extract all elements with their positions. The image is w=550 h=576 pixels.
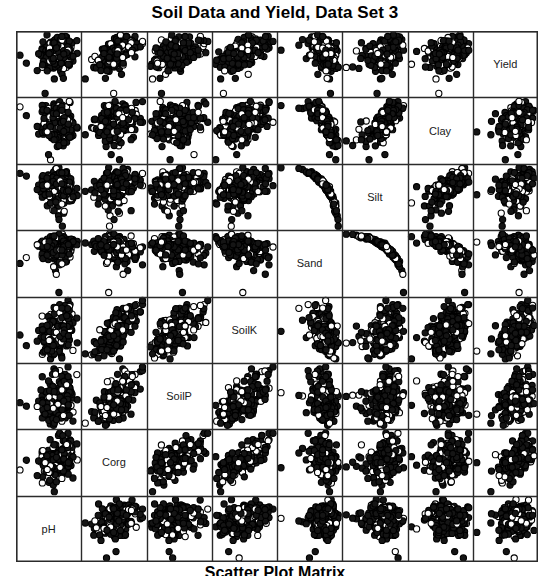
scatter-point [506,355,512,361]
scatter-point [180,137,186,143]
scatter-point [92,409,98,415]
scatter-point [386,115,392,121]
scatter-point [171,128,177,134]
scatter-point [97,327,103,333]
scatter-point [408,200,414,206]
scatter-point [177,271,183,277]
scatter-point [523,137,529,143]
scatter-point [236,555,242,561]
scatter-point [264,378,270,384]
scatter-point [448,396,454,402]
scatter-point [191,115,197,121]
scatter-point [325,472,331,478]
scatter-point [502,129,508,135]
scatter-point [452,548,458,554]
scatter-point [449,530,455,536]
scatter-point [448,479,454,485]
scatter-point [44,32,50,38]
scatter-point [164,55,170,61]
scatter-point [157,75,163,81]
scatter-point [56,289,62,295]
scatter-point [430,316,436,322]
scatter-point [222,182,228,188]
scatter-point [64,441,70,447]
scatter-point [245,32,251,38]
scatter-point [197,456,203,462]
scatter-point [443,506,449,512]
scatter-point [238,51,244,57]
scatter-point [60,412,66,418]
scatter-point [441,186,447,192]
scatter-point [230,186,236,192]
matrix-diagonal-cell: Sand [297,257,323,269]
scatter-point [151,201,157,207]
scatter-point [175,337,181,343]
scatter-point [160,264,166,270]
scatter-point [395,555,401,561]
scatter-point [365,57,371,63]
scatter-point [496,182,502,188]
scatter-point [358,442,364,448]
scatter-point [350,459,356,465]
scatter-point [234,151,240,157]
scatter-point [220,460,226,466]
scatter-point [70,194,76,200]
scatter-point [457,305,463,311]
scatter-point [513,191,519,197]
scatter-point [512,244,518,250]
scatter-point [226,55,232,61]
scatter-point [524,532,530,538]
scatter-point [385,33,391,39]
scatter-point [323,129,329,135]
scatter-point [356,126,362,132]
scatter-point [523,233,529,239]
scatter-point [51,76,57,82]
scatter-point [358,338,364,344]
scatter-point [82,420,88,426]
scatter-point [457,527,463,533]
scatter-point [438,382,444,388]
scatter-point [180,40,186,46]
scatter-point [350,231,356,237]
scatter-point [182,247,188,253]
scatter-point [502,188,508,194]
scatter-point [111,142,117,148]
scatter-point [385,387,391,393]
scatter-point [492,252,498,258]
scatter-point [230,67,236,73]
scatter-point [123,387,129,393]
scatter-point [74,37,80,43]
scatter-point [455,506,461,512]
scatter-point [191,327,197,333]
scatter-point [374,90,380,96]
scatter-point [98,537,104,543]
scatter-point [326,441,332,447]
scatter-point [466,251,472,257]
scatter-point [50,405,56,411]
scatter-point [190,466,196,472]
scatter-point [390,527,396,533]
scatter-point [65,402,71,408]
scatter-point [278,328,284,334]
scatter-point [436,244,442,250]
scatter-point [228,497,234,503]
scatter-point [333,208,339,214]
scatter-point [245,128,251,134]
scatter-point [428,40,434,46]
scatter-point [438,313,444,319]
scatter-point [474,529,480,535]
scatter-point [385,447,391,453]
scatter-point [163,323,169,329]
scatter-point [165,466,171,472]
scatter-point [167,460,173,466]
scatter-point [343,64,349,70]
scatter-point [180,208,186,214]
scatter-point [205,430,211,436]
scatter-point [323,182,329,188]
scatter-point [436,90,442,96]
scatter-point [226,110,232,116]
scatter-point [157,336,163,342]
scatter-point [235,460,241,466]
scatter-point [343,393,349,399]
scatter-point [222,404,228,410]
